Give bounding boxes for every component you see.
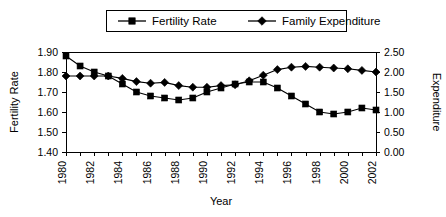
x-axis: 1980198219841986198819901992199419961998…	[56, 152, 378, 207]
y-left-tick-label: 1.60	[38, 106, 59, 118]
data-point-fertility-rate	[190, 95, 196, 101]
data-point-family-expenditure	[259, 71, 267, 79]
y-left-tick-label: 1.50	[38, 126, 59, 138]
y-left-tick-label: 1.40	[38, 146, 59, 158]
x-tick-label: 1986	[141, 161, 153, 185]
x-tick-label: 1988	[169, 161, 181, 185]
dual-axis-line-chart: Fertility RateFamily Expenditure1.401.50…	[0, 0, 446, 217]
data-point-fertility-rate	[359, 105, 365, 111]
legend-label-fertility-rate: Fertility Rate	[152, 15, 217, 27]
y-right-tick-label: 0.50	[384, 126, 405, 138]
data-point-fertility-rate	[303, 101, 309, 107]
data-point-family-expenditure	[330, 64, 338, 72]
data-point-fertility-rate	[63, 53, 69, 59]
data-point-family-expenditure	[273, 66, 281, 74]
x-tick-label: 2000	[338, 161, 350, 185]
x-tick-label: 1992	[225, 161, 237, 185]
x-axis-title: Year	[210, 195, 233, 207]
data-point-family-expenditure	[189, 83, 197, 91]
data-point-family-expenditure	[358, 66, 366, 74]
data-point-family-expenditure	[372, 68, 380, 76]
x-tick-label: 1982	[84, 161, 96, 185]
data-point-fertility-rate	[162, 95, 168, 101]
x-tick-label: 1996	[281, 161, 293, 185]
data-point-family-expenditure	[161, 78, 169, 86]
data-point-family-expenditure	[344, 65, 352, 73]
data-point-fertility-rate	[274, 85, 280, 91]
data-point-fertility-rate	[345, 109, 351, 115]
data-point-family-expenditure	[287, 63, 295, 71]
y-left-tick-label: 1.90	[38, 46, 59, 58]
x-tick-label: 1984	[112, 161, 124, 185]
data-point-fertility-rate	[260, 79, 266, 85]
data-point-fertility-rate	[331, 111, 337, 117]
data-point-fertility-rate	[288, 93, 294, 99]
data-point-family-expenditure	[62, 72, 70, 80]
x-tick-label: 1980	[56, 161, 68, 185]
chart-legend: Fertility RateFamily Expenditure	[107, 11, 381, 32]
data-point-fertility-rate	[148, 93, 154, 99]
y-axis-right: 0.000.501.001.502.002.50Expenditure	[376, 46, 443, 158]
y-axis-left-title: Fertility Rate	[8, 71, 20, 133]
y-right-tick-label: 0.00	[384, 146, 405, 158]
y-left-tick-label: 1.80	[38, 66, 59, 78]
data-point-family-expenditure	[302, 62, 310, 70]
data-point-family-expenditure	[316, 63, 324, 71]
y-right-tick-label: 1.00	[384, 106, 405, 118]
legend-square-marker-icon	[129, 18, 135, 24]
x-tick-label: 1990	[197, 161, 209, 185]
y-axis-left: 1.401.501.601.701.801.90Fertility Rate	[8, 46, 66, 158]
data-point-fertility-rate	[176, 97, 182, 103]
series-family-expenditure	[62, 62, 380, 91]
x-tick-label: 1994	[253, 161, 265, 185]
y-axis-right-title: Expenditure	[431, 73, 443, 132]
data-point-fertility-rate	[373, 107, 379, 113]
chart-container: Fertility RateFamily Expenditure1.401.50…	[0, 0, 446, 217]
data-point-fertility-rate	[133, 89, 139, 95]
y-left-tick-label: 1.70	[38, 86, 59, 98]
y-right-tick-label: 2.00	[384, 66, 405, 78]
y-right-tick-label: 2.50	[384, 46, 405, 58]
data-point-family-expenditure	[147, 79, 155, 87]
legend-label-family-expenditure: Family Expenditure	[282, 15, 380, 27]
data-point-fertility-rate	[317, 109, 323, 115]
data-point-fertility-rate	[77, 63, 83, 69]
data-point-family-expenditure	[132, 78, 140, 86]
data-point-family-expenditure	[76, 72, 84, 80]
x-tick-label: 2002	[366, 161, 378, 185]
y-right-tick-label: 1.50	[384, 86, 405, 98]
data-point-family-expenditure	[175, 82, 183, 90]
x-tick-label: 1998	[310, 161, 322, 185]
